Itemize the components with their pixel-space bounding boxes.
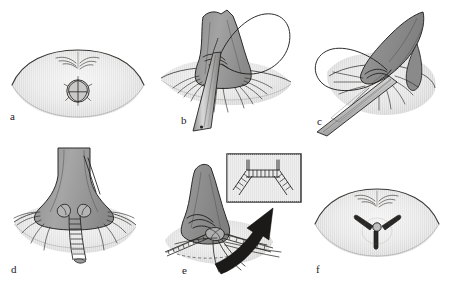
panel-b: b — [155, 0, 305, 146]
tissue-cone — [34, 148, 113, 230]
panel-label-d: d — [11, 264, 17, 275]
panel-e-illustration — [155, 146, 310, 292]
surgical-figure: a — [0, 0, 451, 292]
detail-inset — [227, 154, 301, 202]
panel-label-e: e — [182, 265, 187, 276]
panel-a: a — [0, 0, 155, 146]
panel-label-c: c — [317, 116, 322, 127]
panel-d: d — [0, 146, 155, 292]
panel-label-b: b — [181, 115, 187, 126]
panel-d-illustration — [0, 146, 155, 292]
panel-e: e — [155, 146, 310, 292]
panel-b-illustration — [155, 0, 305, 146]
panel-label-a: a — [10, 111, 15, 122]
panel-c-illustration — [305, 0, 451, 146]
panel-a-illustration — [0, 0, 155, 146]
panel-f-illustration — [305, 146, 451, 292]
panel-c: c — [305, 0, 451, 146]
panel-label-f: f — [316, 264, 320, 275]
panel-f: f — [305, 146, 451, 292]
